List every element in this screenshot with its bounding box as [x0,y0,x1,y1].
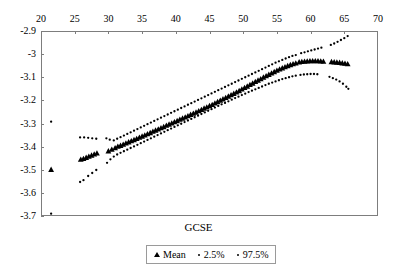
data-point-marker [204,111,206,113]
data-point-marker [231,83,233,85]
data-point-marker [190,118,192,120]
data-point-marker [332,77,334,79]
legend-entry: Mean [154,250,186,260]
data-point-marker [105,137,107,139]
triangle-marker-icon [154,252,160,257]
data-point-marker [194,116,196,118]
data-point-marker [220,87,222,89]
data-point-marker [295,54,297,56]
data-point-marker [91,137,93,139]
data-point-marker [271,81,273,83]
data-point-marker [167,129,169,131]
data-point-marker [278,60,280,62]
data-point-marker [183,105,185,107]
data-point-marker [237,79,239,81]
data-point-marker [241,94,243,96]
data-point-marker [200,113,202,115]
legend-label: 97.5% [243,250,269,260]
data-point-marker [214,91,216,93]
data-point-marker [153,120,155,122]
data-point-marker [50,121,52,123]
legend-entry: 2.5% [196,250,225,260]
data-point-marker [82,179,84,181]
data-point-marker [271,63,273,65]
data-point-marker [50,213,52,215]
data-point-marker [126,133,128,135]
data-point-marker [140,126,142,128]
data-point-marker [224,86,226,88]
data-point-marker [347,35,349,37]
data-point-marker [109,158,111,160]
data-point-marker [338,80,340,82]
data-point-marker [187,119,189,121]
data-point-marker [278,79,280,81]
data-point-marker [48,167,54,172]
data-point-marker [163,115,165,117]
dot-marker-icon [237,254,239,256]
data-point-marker [163,131,165,133]
data-point-marker [197,99,199,101]
dot-marker-icon [198,254,200,256]
data-point-marker [328,76,330,78]
data-point-marker [87,175,89,177]
data-point-marker [129,147,131,149]
data-point-marker [258,70,260,72]
data-point-marker [143,140,145,142]
data-point-marker [207,110,209,112]
data-point-marker [320,47,322,49]
data-point-marker [307,50,309,52]
data-point-marker [340,39,342,41]
data-point-marker [261,85,263,87]
chart-legend: Mean2.5%97.5% [146,245,276,264]
data-point-marker [113,139,115,141]
data-point-marker [119,136,121,138]
data-point-marker [217,89,219,91]
data-point-marker [143,125,145,127]
data-point-marker [231,99,233,101]
data-point-marker [140,142,142,144]
data-point-marker [285,57,287,59]
series-mean [48,58,350,172]
data-point-marker [313,73,315,75]
data-point-marker [310,49,312,51]
data-point-marker [295,74,297,76]
series-2-5- [50,73,350,215]
data-point-marker [345,86,347,88]
data-point-marker [119,152,121,154]
data-point-marker [160,132,162,134]
data-point-marker [177,124,179,126]
data-point-marker [207,94,209,96]
data-point-marker [264,66,266,68]
data-point-marker [123,134,125,136]
data-point-marker [133,145,135,147]
data-point-marker [79,181,81,183]
data-point-marker [268,65,270,67]
data-point-marker [317,47,319,49]
data-point-marker [197,114,199,116]
data-point-marker [288,76,290,78]
data-point-marker [313,48,315,50]
data-point-marker [306,73,308,75]
data-point-marker [156,134,158,136]
data-point-marker [258,87,260,89]
data-point-marker [177,108,179,110]
data-point-marker [251,73,253,75]
data-point-marker [150,137,152,139]
data-point-marker [261,68,263,70]
data-point-marker [264,84,266,86]
data-point-marker [274,62,276,64]
data-point-marker [244,76,246,78]
data-point-marker [91,172,93,174]
data-point-marker [335,78,337,80]
data-point-marker [210,108,212,110]
data-point-marker [170,127,172,129]
data-point-marker [187,104,189,106]
data-point-marker [288,56,290,58]
data-point-marker [123,150,125,152]
data-point-marker [342,83,344,85]
data-point-marker [153,136,155,138]
data-point-marker [156,118,158,120]
data-point-marker [106,162,108,164]
data-point-marker [281,78,283,80]
data-point-marker [180,123,182,125]
